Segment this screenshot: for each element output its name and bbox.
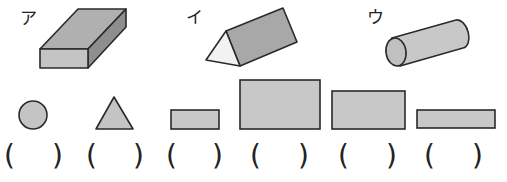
triangular-prism-icon	[206, 8, 297, 66]
triangle-face-icon	[96, 97, 133, 129]
large-rectangle-face-icon	[240, 80, 320, 129]
open-paren: (	[424, 142, 435, 170]
open-paren: (	[86, 142, 97, 170]
open-paren: (	[338, 142, 349, 170]
open-paren: (	[250, 142, 261, 170]
cylinder-icon	[384, 20, 469, 67]
close-paren: )	[52, 142, 63, 170]
close-paren: )	[386, 142, 397, 170]
open-paren: (	[4, 142, 15, 170]
thin-rectangle-face-icon	[417, 110, 495, 128]
medium-rectangle-face-icon	[332, 91, 405, 129]
open-paren: (	[166, 142, 177, 170]
rectangular-prism-icon	[40, 9, 126, 68]
close-paren: )	[472, 142, 483, 170]
small-rectangle-face-icon	[171, 110, 219, 129]
close-paren: )	[212, 142, 223, 170]
circle-face-icon	[19, 101, 47, 129]
close-paren: )	[133, 142, 144, 170]
close-paren: )	[298, 142, 309, 170]
